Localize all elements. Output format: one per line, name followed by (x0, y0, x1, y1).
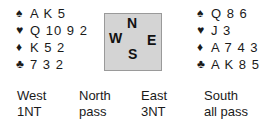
compass-box: N W E S (104, 13, 162, 71)
east-spades: ♠ Q 8 6 (197, 5, 260, 22)
west-clubs-cards: 7 3 2 (30, 56, 64, 73)
auction-bid-east: 3NT (141, 104, 167, 120)
west-hearts-cards: Q 10 9 2 (30, 22, 88, 39)
auction-header-north: North (79, 88, 111, 104)
auction-bid-north: pass (79, 104, 111, 120)
heart-icon: ♥ (197, 22, 211, 39)
compass-south: S (128, 46, 137, 62)
east-hearts: ♥ J 3 (197, 22, 260, 39)
west-spades: ♠ A K 5 (16, 5, 88, 22)
auction-header-east: East (141, 88, 167, 104)
west-hand: ♠ A K 5 ♥ Q 10 9 2 ♦ K 5 2 ♣ 7 3 2 (16, 5, 88, 73)
auction-col-east: East 3NT (141, 88, 167, 120)
compass-west: W (109, 30, 122, 46)
east-hearts-cards: J 3 (211, 22, 231, 39)
compass-north: N (127, 15, 137, 31)
east-hand: ♠ Q 8 6 ♥ J 3 ♦ A 7 4 3 ♣ A K 8 5 (197, 5, 260, 73)
auction-bid-south: all pass (204, 104, 248, 120)
east-clubs-cards: A K 8 5 (211, 56, 260, 73)
west-diamonds: ♦ K 5 2 (16, 39, 88, 56)
diamond-icon: ♦ (197, 39, 211, 56)
spade-icon: ♠ (197, 5, 211, 22)
east-clubs: ♣ A K 8 5 (197, 56, 260, 73)
auction-col-south: South all pass (204, 88, 248, 120)
auction-header-west: West (17, 88, 46, 104)
east-diamonds: ♦ A 7 4 3 (197, 39, 260, 56)
west-spades-cards: A K 5 (30, 5, 66, 22)
west-hearts: ♥ Q 10 9 2 (16, 22, 88, 39)
compass-east: E (147, 32, 156, 48)
east-spades-cards: Q 8 6 (211, 5, 248, 22)
auction-bid-west: 1NT (17, 104, 46, 120)
west-diamonds-cards: K 5 2 (30, 39, 65, 56)
club-icon: ♣ (16, 56, 30, 73)
auction-col-west: West 1NT (17, 88, 46, 120)
club-icon: ♣ (197, 56, 211, 73)
auction-header-south: South (204, 88, 248, 104)
heart-icon: ♥ (16, 22, 30, 39)
diamond-icon: ♦ (16, 39, 30, 56)
auction-col-north: North pass (79, 88, 111, 120)
west-clubs: ♣ 7 3 2 (16, 56, 88, 73)
east-diamonds-cards: A 7 4 3 (211, 39, 258, 56)
spade-icon: ♠ (16, 5, 30, 22)
